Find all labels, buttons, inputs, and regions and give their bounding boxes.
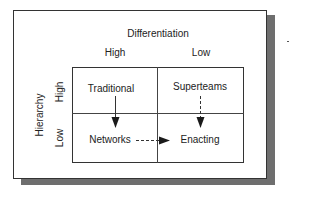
row-level-low: Low — [54, 129, 66, 147]
cell-traditional: Traditional — [88, 83, 134, 95]
cell-networks: Networks — [89, 134, 131, 146]
horizontal-divider — [72, 113, 244, 114]
cell-superteams: Superteams — [173, 81, 227, 93]
cell-enacting: Enacting — [181, 134, 220, 146]
column-axis-title: Differentiation — [127, 28, 189, 40]
column-level-high: High — [105, 47, 126, 59]
row-level-high: High — [54, 82, 66, 103]
edge-mark — [287, 41, 289, 42]
column-level-low: Low — [192, 47, 210, 59]
row-axis-title: Hierarchy — [34, 94, 46, 137]
vertical-divider — [157, 67, 158, 163]
